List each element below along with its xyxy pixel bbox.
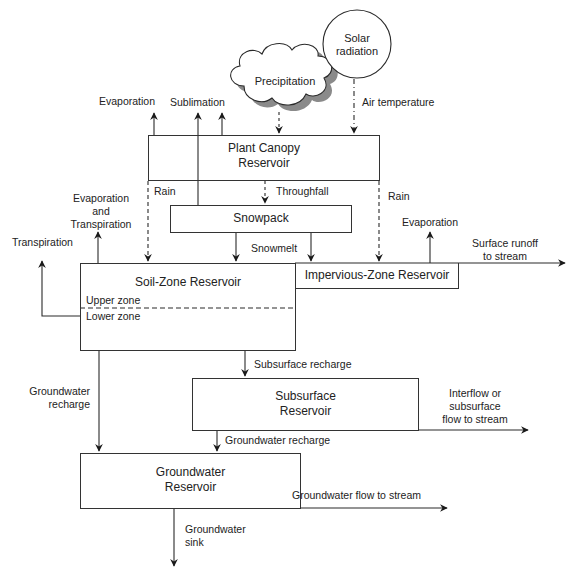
plant-canopy-label-line2: Reservoir bbox=[148, 156, 380, 171]
gw-sink-line1: Groundwater bbox=[185, 523, 246, 536]
solar-label-line2: radiation bbox=[317, 45, 397, 58]
interflow-line1: Interflow or bbox=[430, 387, 520, 400]
transpiration-label: Transpiration bbox=[12, 236, 73, 249]
gw-sink-label: Groundwater sink bbox=[185, 523, 246, 549]
surface-runoff-line2: to stream bbox=[460, 250, 550, 263]
upper-zone-label: Upper zone bbox=[86, 294, 140, 307]
gw-recharge-left-label: Groundwater recharge bbox=[28, 385, 90, 411]
interflow-line3: flow to stream bbox=[430, 413, 520, 426]
gw-recharge-subsurface-label: Groundwater recharge bbox=[225, 434, 330, 447]
gw-sink-line2: sink bbox=[185, 536, 246, 549]
evap-transp-line1: Evaporation bbox=[68, 192, 134, 205]
solar-label-line1: Solar bbox=[317, 32, 397, 45]
subsurface-label-line2: Reservoir bbox=[192, 404, 419, 419]
impervious-zone-label: Impervious-Zone Reservoir bbox=[295, 268, 459, 283]
subsurface-label: Subsurface Reservoir bbox=[192, 389, 419, 419]
air-temperature-label: Air temperature bbox=[362, 96, 434, 109]
evap-transp-line3: Transpiration bbox=[68, 218, 134, 231]
precipitation-label: Precipitation bbox=[240, 75, 330, 88]
plant-canopy-label-line1: Plant Canopy bbox=[148, 141, 380, 156]
rain-right-label: Rain bbox=[388, 190, 410, 203]
gw-flow-label: Groundwater flow to stream bbox=[292, 489, 421, 502]
groundwater-label-line1: Groundwater bbox=[80, 465, 301, 480]
subsurface-recharge-label: Subsurface recharge bbox=[254, 358, 351, 371]
interflow-label: Interflow or subsurface flow to stream bbox=[430, 387, 520, 426]
evaporation-canopy-label: Evaporation bbox=[99, 95, 155, 108]
snowpack-label: Snowpack bbox=[170, 211, 352, 226]
groundwater-label: Groundwater Reservoir bbox=[80, 465, 301, 495]
sublimation-label: Sublimation bbox=[170, 96, 225, 109]
surface-runoff-label: Surface runoff to stream bbox=[460, 237, 550, 263]
groundwater-label-line2: Reservoir bbox=[80, 480, 301, 495]
surface-runoff-line1: Surface runoff bbox=[460, 237, 550, 250]
plant-canopy-label: Plant Canopy Reservoir bbox=[148, 141, 380, 171]
interflow-line2: subsurface bbox=[430, 400, 520, 413]
gw-recharge-left-line1: Groundwater bbox=[28, 385, 90, 398]
solar-radiation-label: Solar radiation bbox=[317, 32, 397, 58]
snowmelt-label: Snowmelt bbox=[251, 242, 297, 255]
throughfall-label: Throughfall bbox=[276, 185, 329, 198]
rain-left-label: Rain bbox=[154, 185, 176, 198]
gw-recharge-left-line2: recharge bbox=[28, 398, 90, 411]
evaporation-transpiration-label: Evaporation and Transpiration bbox=[68, 192, 134, 231]
soil-zone-label: Soil-Zone Reservoir bbox=[80, 275, 296, 290]
lower-zone-label: Lower zone bbox=[86, 310, 140, 323]
evaporation-impervious-label: Evaporation bbox=[402, 216, 458, 229]
evap-transp-line2: and bbox=[68, 205, 134, 218]
subsurface-label-line1: Subsurface bbox=[192, 389, 419, 404]
